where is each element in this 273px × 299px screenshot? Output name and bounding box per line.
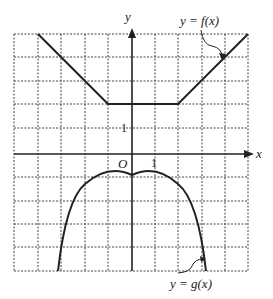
origin-label: O xyxy=(118,156,127,172)
f-label: y = f(x) xyxy=(180,13,219,29)
x-unit-label: 1 xyxy=(151,156,157,171)
curve-f xyxy=(38,34,248,104)
function-graph-diagram: y x O 1 1 y = f(x) y = g(x) xyxy=(0,0,273,299)
y-unit-label: 1 xyxy=(121,121,127,136)
g-label: y = g(x) xyxy=(170,276,212,292)
y-axis-arrow-icon xyxy=(128,28,136,38)
graph-canvas xyxy=(0,0,273,299)
y-axis-label: y xyxy=(125,9,131,25)
x-axis-label: x xyxy=(256,146,262,162)
x-axis-arrow-icon xyxy=(244,150,254,158)
